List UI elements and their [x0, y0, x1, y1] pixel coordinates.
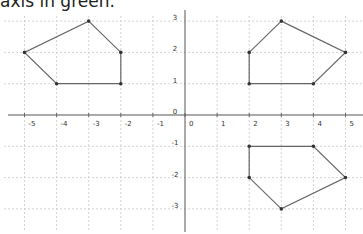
vertex-point	[247, 82, 251, 86]
x-tick-label: -1	[157, 120, 164, 128]
y-tick-label: 2	[173, 45, 177, 53]
vertex-point	[280, 207, 284, 211]
x-tick-label: 2	[253, 120, 257, 128]
x-tick-label: 0	[189, 120, 193, 128]
vertex-point	[344, 176, 348, 180]
y-tick-label: -2	[172, 171, 179, 179]
vertex-point	[247, 145, 251, 149]
x-tick-label: 4	[317, 120, 322, 128]
vertex-point	[119, 82, 123, 86]
coordinate-plane: -5-4-3-2-10123453210-1-2-3	[0, 0, 363, 234]
vertex-point	[87, 19, 91, 23]
vertex-point	[55, 82, 59, 86]
x-tick-label: 5	[350, 120, 354, 128]
x-tick-label: 1	[221, 120, 225, 128]
vertex-point	[247, 51, 251, 55]
x-tick-label: -4	[61, 120, 69, 128]
vertex-point	[23, 51, 27, 55]
vertex-point	[344, 51, 348, 55]
y-tick-label: 0	[173, 108, 177, 116]
vertex-point	[119, 51, 123, 55]
vertex-point	[312, 82, 316, 86]
x-tick-label: -2	[125, 120, 132, 128]
x-tick-label: 3	[285, 120, 289, 128]
vertex-point	[312, 145, 316, 149]
vertex-point	[247, 176, 251, 180]
x-tick-label: -3	[93, 120, 100, 128]
vertex-point	[280, 19, 284, 23]
y-tick-label: -1	[172, 139, 179, 147]
y-tick-label: -3	[172, 202, 179, 210]
y-tick-label: 3	[173, 14, 177, 22]
y-tick-label: 1	[173, 77, 177, 85]
x-tick-label: -5	[29, 120, 36, 128]
